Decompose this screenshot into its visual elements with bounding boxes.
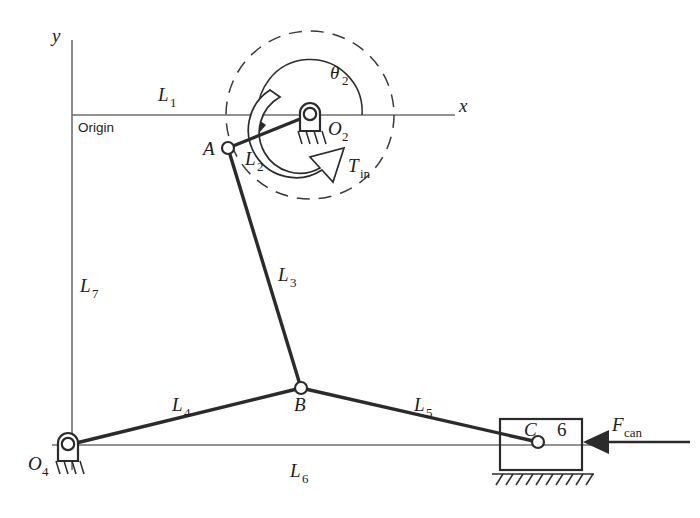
- force-label: F: [611, 414, 624, 435]
- torque-label: T: [348, 155, 360, 176]
- link-label-L7-sub: 7: [92, 286, 99, 301]
- link-label-L5-sub: 5: [426, 405, 433, 420]
- linkage-diagram: y x Origin L 1 L 2 L 3 L 4 L 5 L 6 L 7 A…: [0, 0, 700, 518]
- joint-label-A: A: [201, 138, 215, 159]
- torque-label-sub: in: [360, 166, 371, 181]
- link-label-L4-sub: 4: [184, 405, 191, 420]
- joint-B: [295, 382, 307, 394]
- slider-ground-hatching: [492, 474, 594, 485]
- link-label-L1: L: [157, 84, 169, 105]
- joint-label-C: C: [524, 419, 537, 440]
- pivot-O2: [298, 103, 326, 144]
- link-label-L6-sub: 6: [302, 471, 309, 486]
- origin-label: Origin: [78, 120, 114, 135]
- joint-A: [222, 142, 234, 154]
- mechanism-drawing: y x Origin L 1 L 2 L 3 L 4 L 5 L 6 L 7 A…: [0, 0, 700, 518]
- joint-label-O2-sub: 2: [342, 129, 349, 144]
- link-label-L4: L: [171, 394, 183, 415]
- joint-label-B: B: [294, 394, 306, 415]
- link-label-L5: L: [413, 394, 425, 415]
- link-L3: [228, 148, 301, 388]
- force-arrowhead: [583, 430, 609, 454]
- joint-label-O4-sub: 4: [42, 464, 49, 479]
- link-label-L6: L: [289, 460, 301, 481]
- link-label-L1-sub: 1: [170, 95, 177, 110]
- link-label-L2: L: [244, 148, 256, 169]
- x-axis-label: x: [458, 95, 468, 116]
- y-axis-label: y: [50, 25, 61, 46]
- pivot-O4: [56, 433, 84, 474]
- link-label-L7: L: [79, 275, 91, 296]
- link-label-L3-sub: 3: [290, 275, 297, 290]
- link-label-L2-sub: 2: [257, 159, 264, 174]
- slider-number-label: 6: [557, 419, 567, 440]
- joint-label-O2: O: [328, 118, 342, 139]
- theta2-label-sub: 2: [342, 73, 349, 88]
- link-label-L3: L: [277, 264, 289, 285]
- joint-label-O4: O: [28, 453, 42, 474]
- theta2-label: θ: [330, 62, 339, 83]
- force-label-sub: can: [624, 425, 643, 440]
